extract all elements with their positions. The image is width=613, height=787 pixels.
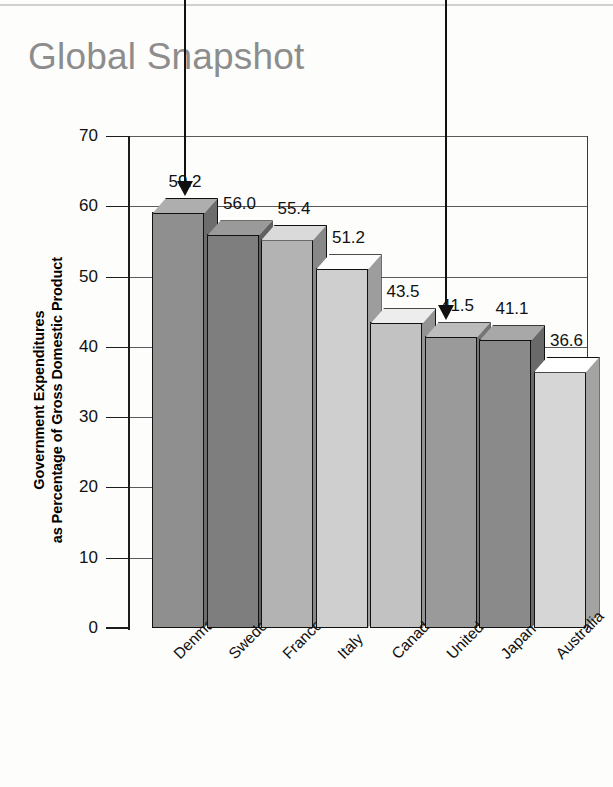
bar-value-label-japan: 41.1	[482, 299, 542, 319]
bar-sweden	[207, 220, 259, 628]
bar-side-face	[586, 357, 600, 628]
bar-value-label-sweden: 56.0	[210, 194, 270, 214]
arrow-denmark-head	[177, 181, 193, 196]
bar-australia	[534, 357, 586, 628]
bar-value-label-france: 55.4	[264, 199, 324, 219]
bars-layer: 59.2Denmark56.0Sweden55.4France51.2Italy…	[0, 0, 613, 787]
chart-canvas: Global Snapshot Government Expenditures …	[0, 0, 613, 787]
bar-front-face	[534, 371, 586, 628]
bar-canada	[370, 308, 422, 628]
bar-france	[261, 225, 313, 628]
bar-value-label-canada: 43.5	[373, 282, 433, 302]
bar-value-label-australia: 36.6	[537, 331, 597, 351]
bar-value-label-united-states: 41.5	[428, 296, 488, 316]
bar-japan	[479, 325, 531, 628]
bar-front-face	[261, 239, 313, 628]
bar-front-face	[370, 322, 422, 628]
bar-front-face	[207, 234, 259, 628]
bar-front-face	[316, 268, 368, 628]
x-axis-label-italy: Italy	[334, 630, 367, 663]
arrow-denmark-shaft	[184, 0, 186, 181]
bar-denmark	[152, 198, 204, 628]
bar-italy	[316, 254, 368, 628]
bar-united-states	[425, 322, 477, 628]
bar-front-face	[152, 212, 204, 628]
arrow-united-states-head	[438, 305, 454, 320]
bar-front-face	[425, 336, 477, 628]
arrow-united-states-shaft	[445, 0, 447, 305]
bar-value-label-italy: 51.2	[319, 228, 379, 248]
bar-front-face	[479, 339, 531, 628]
